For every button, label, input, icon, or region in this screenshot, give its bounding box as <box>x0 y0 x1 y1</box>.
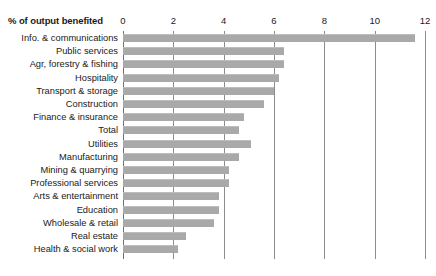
bar <box>123 153 239 161</box>
gridline-12 <box>425 31 426 259</box>
category-labels: Info. & communicationsPublic servicesAgr… <box>0 31 123 259</box>
x-axis-tick-labels: 024681012 <box>0 15 436 29</box>
gridline-8 <box>324 31 325 259</box>
category-label: Hospitality <box>75 73 118 84</box>
x-tick-label-10: 10 <box>369 15 380 26</box>
bar <box>123 206 219 214</box>
category-label: Arts & entertainment <box>33 191 118 202</box>
bar <box>123 245 178 253</box>
bar <box>123 192 219 200</box>
category-label: Construction <box>66 99 118 110</box>
bar <box>123 113 244 121</box>
plot-area <box>123 31 426 259</box>
bar <box>123 100 264 108</box>
category-label: Education <box>77 205 118 216</box>
category-label: Info. & communications <box>21 33 118 44</box>
category-label: Finance & insurance <box>33 112 118 123</box>
category-label: Real estate <box>71 231 118 242</box>
bar <box>123 140 251 148</box>
category-label: Utilities <box>88 139 118 150</box>
bar <box>123 232 186 240</box>
x-tick-label-6: 6 <box>271 15 276 26</box>
category-label: Mining & quarrying <box>40 165 118 176</box>
x-tick-label-2: 2 <box>171 15 176 26</box>
category-label: Public services <box>56 46 118 57</box>
bar <box>123 166 229 174</box>
x-tick-label-8: 8 <box>322 15 327 26</box>
bar <box>123 219 214 227</box>
category-label: Manufacturing <box>59 152 118 163</box>
gridline-10 <box>375 31 376 259</box>
bar <box>123 179 229 187</box>
category-label: Transport & storage <box>36 86 118 97</box>
x-tick-label-12: 12 <box>420 15 431 26</box>
x-tick-label-0: 0 <box>120 15 125 26</box>
category-label: Health & social work <box>34 244 118 255</box>
bar <box>123 47 284 55</box>
bar <box>123 126 239 134</box>
bar <box>123 74 279 82</box>
x-tick-label-4: 4 <box>221 15 226 26</box>
plot-body: Info. & communicationsPublic servicesAgr… <box>0 31 436 259</box>
horizontal-bar-chart: % of output benefited 024681012 Info. & … <box>0 0 436 276</box>
bar <box>123 60 284 68</box>
category-label: Wholesale & retail <box>43 218 118 229</box>
bar <box>123 87 274 95</box>
category-label: Total <box>98 125 118 136</box>
category-label: Agr, forestry & fishing <box>30 59 118 70</box>
bar <box>123 34 415 42</box>
category-label: Professional services <box>30 178 118 189</box>
